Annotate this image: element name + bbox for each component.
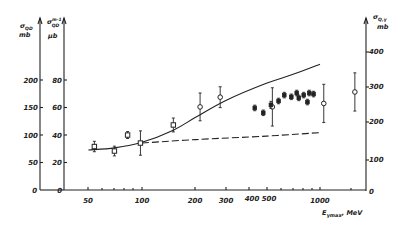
data-point [353,73,358,111]
data-point [297,95,301,101]
data-point [302,92,306,98]
left-outer-axis-unit: mb [19,31,31,39]
baseline-dashed-curve [142,133,320,143]
left-inner-tick-60: 60 [52,104,62,112]
series-open-square [92,118,175,156]
left-inner-axis-unit: μb [47,32,58,40]
data-point [312,91,316,97]
left-inner-tick-20: 20 [52,159,62,167]
right-tick-0: 0 [369,188,374,196]
left-outer-tick-0: 0 [32,187,37,195]
right-tick-300: 300 [369,83,384,91]
data-point [261,110,265,116]
data-point [253,105,257,111]
left-outer-tick-50: 50 [28,159,38,167]
right-axis-title: σQ,γ [373,13,388,22]
data-point [125,132,129,139]
theory-curve [88,64,320,150]
left-outer-tick-200: 200 [23,77,38,85]
right-tick-200: 200 [369,118,384,126]
left-inner-tick-40: 40 [52,132,62,140]
data-point [307,90,311,96]
right-axis: 0 100 200 300 400 σQ,γ mb [364,13,389,196]
x-axis-title: Eγmax, MeV [322,209,363,219]
right-tick-100: 100 [369,156,384,164]
data-point [198,93,203,121]
data-point [277,98,281,104]
left-outer-tick-150: 150 [23,104,38,112]
left-outer-axis-title: σQD [20,22,33,31]
x-axis: 50 100 200 300 400 500 1000 Eγmax, MeV [64,187,366,219]
x-tick-50: 50 [83,197,93,205]
right-axis-unit: mb [377,23,389,31]
series-filled-diamond [253,90,315,115]
x-tick-1000: 1000 [310,197,330,205]
right-tick-400: 400 [369,48,384,56]
data-point [321,84,326,122]
series-solid-line [88,64,320,150]
left-inner-tick-0: 0 [57,187,62,195]
x-tick-100: 100 [135,197,150,205]
left-inner-tick-80: 80 [52,77,62,85]
left-outer-tick-100: 100 [23,132,38,140]
series-dashed-line [142,133,320,143]
data-point [306,99,310,105]
x-tick-400: 400 [245,195,260,203]
data-point [138,131,142,155]
x-tick-200: 200 [188,197,203,205]
left-inner-axis-title: σm-1QD [47,17,62,28]
x-tick-300: 300 [219,197,234,205]
x-tick-500: 500 [262,195,277,203]
data-point [282,92,286,98]
data-point [290,94,294,100]
chart: 0 50 100 150 200 σQD mb 0 20 40 60 80 σm… [0,0,404,232]
left-inner-axis: 0 20 40 60 80 σm-1QD μb [47,17,67,195]
plot-area [88,64,357,156]
